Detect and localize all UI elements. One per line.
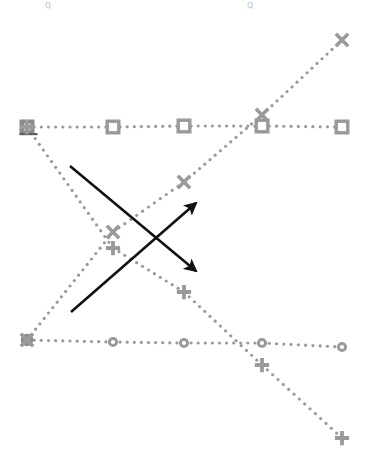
series-line-squares: [33, 124, 337, 128]
series-layer: [20, 34, 350, 445]
plot-area: [0, 0, 371, 465]
series-markers-crosses: [21, 34, 348, 346]
series-markers-plus: [20, 120, 349, 445]
chart-figure: g g: [0, 0, 371, 465]
series-line-plus: [30, 131, 339, 435]
